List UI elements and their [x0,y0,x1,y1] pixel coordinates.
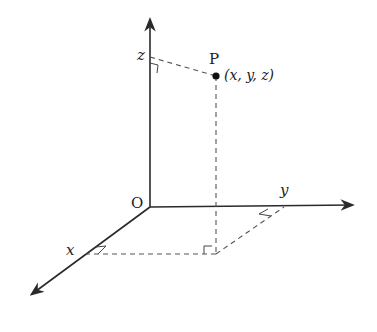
y-axis [150,205,352,207]
point-p-marker [212,72,219,79]
right-angle-marks [96,63,271,254]
point-label: P [209,50,219,68]
diagram-svg [0,0,377,332]
y-axis-label: y [280,181,288,199]
z-axis-label: z [137,46,145,64]
coordinate-diagram: O x y z P (x, y, z) [0,0,377,332]
origin-label: O [131,194,143,212]
coordinates-label: (x, y, z) [224,67,274,83]
x-axis-label: x [66,241,74,259]
x-axis [32,207,150,294]
projection-lines [86,57,284,254]
